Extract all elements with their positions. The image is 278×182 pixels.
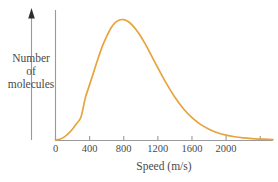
x-axis-tick-label: 0	[39, 143, 73, 154]
axes	[55, 10, 273, 141]
x-axis-tick-label: 2000	[209, 143, 243, 154]
distribution-curve	[56, 20, 274, 140]
x-axis-tick-label: 1600	[175, 143, 209, 154]
x-axis-tick-label: 1200	[141, 143, 175, 154]
x-axis-tick-label: 800	[107, 143, 141, 154]
plot-area	[0, 0, 278, 182]
speed-distribution-figure: Number of molecules 0400800120016002000 …	[0, 0, 278, 182]
x-axis-title: Speed (m/s)	[55, 160, 273, 172]
x-axis-tick-label: 400	[73, 143, 107, 154]
